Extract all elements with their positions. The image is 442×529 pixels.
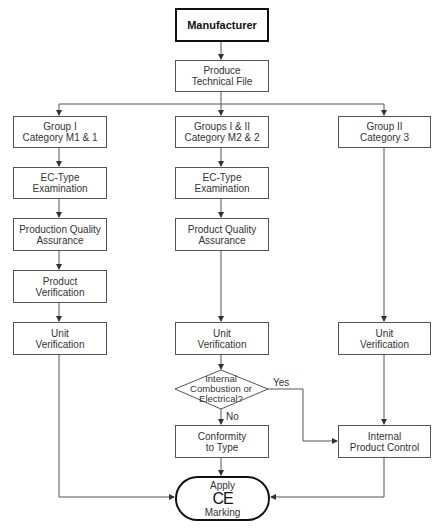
node-label: Examination bbox=[32, 183, 87, 194]
node-label: Unit bbox=[213, 328, 231, 339]
apply-ce-node: Apply CE Marking bbox=[175, 476, 270, 521]
node-label: Verification bbox=[36, 287, 85, 298]
node-label: Category 3 bbox=[360, 132, 409, 143]
node-label: Group I bbox=[43, 121, 76, 132]
node-label: Unit bbox=[51, 328, 69, 339]
unit-verification-left-node: Unit Verification bbox=[13, 322, 107, 355]
node-label: Verification bbox=[360, 339, 409, 350]
node-label: Unit bbox=[376, 328, 394, 339]
no-label: No bbox=[226, 411, 239, 422]
node-label: Category M2 & 2 bbox=[184, 132, 259, 143]
node-label: Internal bbox=[368, 431, 401, 442]
node-label: Product Control bbox=[350, 442, 419, 453]
internal-control-node: Internal Product Control bbox=[338, 425, 431, 458]
group2-node: Group II Category 3 bbox=[338, 116, 431, 148]
node-label: Technical File bbox=[192, 76, 253, 87]
ec-type-mid-node: EC-Type Examination bbox=[175, 167, 269, 199]
manufacturer-label: Manufacturer bbox=[187, 20, 257, 31]
node-label: Electrical? bbox=[180, 394, 262, 404]
product-qa-node: Product Quality Assurance bbox=[175, 218, 269, 251]
unit-verification-mid-node: Unit Verification bbox=[175, 322, 269, 355]
node-label: EC-Type bbox=[41, 172, 80, 183]
group12-node: Groups I & II Category M2 & 2 bbox=[175, 116, 269, 148]
node-label: Category M1 & 1 bbox=[22, 132, 97, 143]
node-label: Conformity bbox=[198, 431, 246, 442]
node-label: Assurance bbox=[198, 235, 245, 246]
unit-verification-right-node: Unit Verification bbox=[338, 322, 431, 355]
node-label: Marking bbox=[205, 507, 241, 518]
node-label: Product bbox=[43, 276, 77, 287]
production-qa-node: Production Quality Assurance bbox=[13, 218, 107, 251]
node-label: Examination bbox=[194, 183, 249, 194]
product-verification-node: Product Verification bbox=[13, 270, 107, 303]
node-label: Product Quality bbox=[188, 224, 256, 235]
technical-file-node: Produce Technical File bbox=[175, 60, 269, 92]
manufacturer-node: Manufacturer bbox=[175, 8, 269, 42]
node-label: Produce bbox=[203, 65, 240, 76]
node-label: Verification bbox=[198, 339, 247, 350]
node-label: Assurance bbox=[36, 235, 83, 246]
conformity-node: Conformity to Type bbox=[175, 425, 269, 458]
node-label: Group II bbox=[366, 121, 402, 132]
node-label: Apply bbox=[210, 480, 235, 491]
node-label: EC-Type bbox=[203, 172, 242, 183]
ce-mark-icon: CE bbox=[212, 491, 232, 507]
group1-node: Group I Category M1 & 1 bbox=[13, 116, 107, 148]
node-label: Groups I & II bbox=[194, 121, 250, 132]
node-label: Verification bbox=[36, 339, 85, 350]
node-label: to Type bbox=[206, 442, 239, 453]
yes-label: Yes bbox=[273, 377, 289, 388]
node-label: Production Quality bbox=[19, 224, 101, 235]
ec-type-left-node: EC-Type Examination bbox=[13, 167, 107, 199]
decision-node: Internal Combustion or Electrical? bbox=[180, 374, 262, 404]
